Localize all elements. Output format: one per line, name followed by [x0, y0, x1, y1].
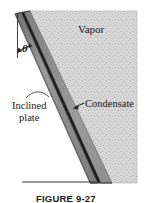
figure-caption: FIGURE 9-27 [36, 193, 96, 203]
label-condensate: Condensate [85, 98, 134, 109]
label-inclined-plate-line2: plate [12, 112, 46, 124]
label-vapor: Vapor [78, 24, 104, 36]
label-angle-theta: θ [22, 43, 28, 55]
figure-container: Vapor Condensate Inclined plate θ FIGURE… [0, 0, 151, 203]
label-inclined-plate-line1: Inclined [12, 100, 46, 112]
label-inclined-plate: Inclined plate [12, 100, 46, 124]
inclined-plate-leader-line [26, 92, 49, 98]
